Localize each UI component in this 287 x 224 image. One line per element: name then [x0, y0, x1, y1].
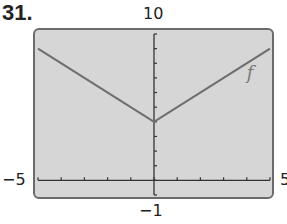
curve-label: f	[245, 62, 257, 83]
plot-area: f	[0, 0, 287, 224]
